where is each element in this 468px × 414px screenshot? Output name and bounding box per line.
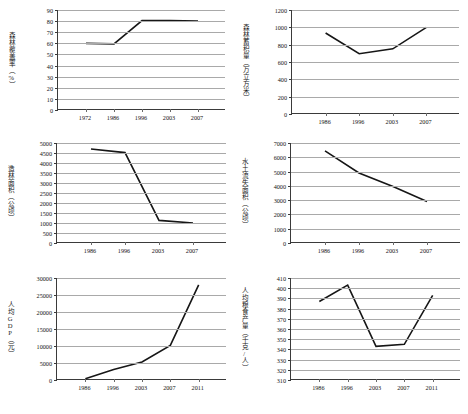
- gridline: [58, 32, 225, 33]
- chart-figure-grid: 森林覆盖率（%） 0102030405060708090 19721986199…: [0, 0, 468, 414]
- y-tick-label: 30000: [37, 275, 52, 282]
- x-tick-label: 1986: [107, 114, 119, 121]
- gridline: [291, 298, 460, 299]
- y-tick-mark: [288, 309, 291, 310]
- y-tick-label: 380: [277, 305, 286, 312]
- y-tick-label: 370: [277, 315, 286, 322]
- x-tick-label: 2007: [191, 114, 203, 121]
- gridline: [292, 10, 459, 11]
- x-tick-label: 1996: [118, 247, 130, 254]
- x-tick-mark: [91, 242, 92, 245]
- gridline: [291, 200, 460, 201]
- y-tick-label: 80: [47, 18, 53, 25]
- y-tick-label: 0: [50, 107, 53, 114]
- series-line: [58, 10, 226, 110]
- gridline: [57, 153, 226, 154]
- y-tick-mark: [54, 153, 57, 154]
- y-tick-label: 70: [47, 29, 53, 36]
- chart-per-capita-gdp: 人均GDP（元） 050001000015000200002500030000 …: [0, 268, 234, 414]
- y-tick-label: 90: [47, 7, 53, 14]
- gridline: [291, 339, 460, 340]
- gridline: [291, 278, 460, 279]
- y-tick-mark: [54, 183, 57, 184]
- gridline: [57, 295, 226, 296]
- x-tick-label: 1986: [84, 247, 96, 254]
- x-tick-label: 1986: [318, 247, 330, 254]
- gridline: [291, 172, 460, 173]
- plot-area: [290, 278, 460, 380]
- y-tick-mark: [54, 295, 57, 296]
- y-tick-mark: [55, 54, 58, 55]
- gridline: [292, 97, 459, 98]
- y-axis-title: 森林蓄积量（万立方米）: [237, 10, 253, 114]
- y-tick-label: 3000: [274, 197, 286, 204]
- plot-area: [56, 278, 226, 380]
- y-tick-label: 800: [278, 41, 287, 48]
- chart-panel-per-capita-grain-output: 人均粮食产量（千克/人） 310320330340350360370380390…: [234, 268, 468, 414]
- plot-area: [57, 10, 225, 110]
- y-tick-mark: [54, 173, 57, 174]
- y-tick-label: 2000: [274, 211, 286, 218]
- y-tick-mark: [288, 329, 291, 330]
- x-tick-label: 2007: [419, 118, 431, 125]
- chart-soil-erosion-area: 水土流失面积（公顷） 01000200030004000500060007000…: [234, 135, 468, 268]
- y-tick-mark: [55, 88, 58, 89]
- y-tick-mark: [55, 43, 58, 44]
- gridline: [57, 173, 226, 174]
- chart-panel-forest-coverage: 森林覆盖率（%） 0102030405060708090 19721986199…: [0, 0, 234, 135]
- y-tick-mark: [288, 186, 291, 187]
- y-tick-label: 2000: [40, 200, 52, 207]
- x-tick-label: 1986: [318, 118, 330, 125]
- y-tick-mark: [54, 363, 57, 364]
- y-tick-mark: [289, 10, 292, 11]
- gridline: [57, 213, 226, 214]
- y-tick-label: 320: [277, 366, 286, 373]
- x-tick-mark: [170, 379, 171, 382]
- gridline: [57, 223, 226, 224]
- y-tick-mark: [54, 223, 57, 224]
- y-tick-label: 1200: [275, 7, 287, 14]
- x-tick-mark: [114, 379, 115, 382]
- y-tick-mark: [288, 200, 291, 201]
- x-tick-label: 1986: [312, 384, 324, 391]
- y-tick-label: 0: [283, 240, 286, 247]
- x-tick-mark: [376, 379, 377, 382]
- y-tick-mark: [54, 193, 57, 194]
- x-axis-ticks: 1986199620032007: [56, 247, 226, 259]
- y-tick-mark: [289, 97, 292, 98]
- y-tick-label: 5000: [40, 140, 52, 147]
- gridline: [291, 288, 460, 289]
- gridline: [292, 45, 459, 46]
- gridline: [58, 54, 225, 55]
- y-tick-mark: [54, 203, 57, 204]
- gridline: [291, 360, 460, 361]
- y-tick-mark: [55, 110, 58, 111]
- x-tick-mark: [86, 109, 87, 112]
- gridline: [57, 203, 226, 204]
- y-axis-ticks: 01000200030004000500060007000: [254, 143, 288, 243]
- chart-per-capita-grain-output: 人均粮食产量（千克/人） 310320330340350360370380390…: [234, 268, 468, 414]
- y-tick-mark: [55, 21, 58, 22]
- y-tick-label: 350: [277, 336, 286, 343]
- x-tick-mark: [426, 113, 427, 116]
- y-tick-label: 5000: [274, 168, 286, 175]
- x-tick-label: 2007: [186, 247, 198, 254]
- y-tick-mark: [54, 380, 57, 381]
- y-tick-mark: [54, 233, 57, 234]
- plot-area: [291, 10, 459, 114]
- y-tick-label: 1000: [275, 24, 287, 31]
- gridline: [57, 312, 226, 313]
- x-tick-mark: [114, 109, 115, 112]
- gridline: [291, 319, 460, 320]
- gridline: [292, 79, 459, 80]
- x-axis-ticks: 19861996200320072011: [56, 384, 226, 396]
- y-tick-label: 360: [277, 326, 286, 333]
- y-tick-label: 330: [277, 356, 286, 363]
- x-tick-label: 2003: [152, 247, 164, 254]
- x-tick-mark: [326, 113, 327, 116]
- y-tick-mark: [288, 278, 291, 279]
- gridline: [292, 62, 459, 63]
- y-tick-mark: [288, 243, 291, 244]
- gridline: [291, 229, 460, 230]
- gridline: [291, 143, 460, 144]
